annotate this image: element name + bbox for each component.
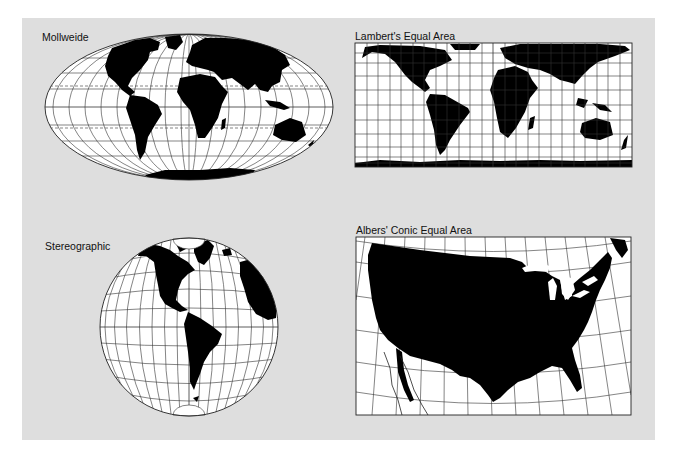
albers-map: [356, 237, 631, 415]
map-projections-figure: [0, 0, 677, 455]
lambert-map: [355, 43, 632, 167]
stereographic-map: [100, 238, 278, 417]
mollweide-map: [45, 34, 333, 181]
